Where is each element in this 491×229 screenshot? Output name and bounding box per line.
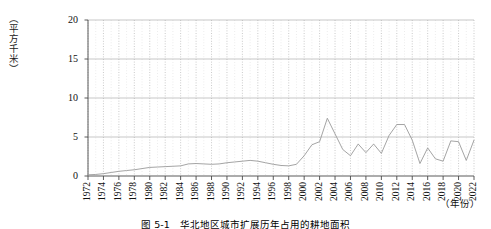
x-axis-unit-label: （年份） <box>440 196 480 210</box>
x-tick-label: 1996 <box>267 182 277 201</box>
x-tick-label: 1984 <box>175 182 185 201</box>
x-tick-label: 2008 <box>360 182 370 201</box>
x-tick-label: 1998 <box>283 182 293 201</box>
x-tick-label: 1982 <box>159 182 169 201</box>
x-tick-label: 1978 <box>128 182 138 201</box>
x-tick-label: 2012 <box>391 182 401 201</box>
x-tick-label: 1994 <box>252 182 262 201</box>
x-tick-label: 1990 <box>221 182 231 201</box>
x-tick-label: 1976 <box>113 182 123 201</box>
x-tick-label: 1974 <box>97 182 107 201</box>
y-tick-label: 0 <box>50 170 78 181</box>
x-axis-ticks <box>88 176 474 180</box>
x-tick-label: 1980 <box>144 182 154 201</box>
x-tick-label: 1992 <box>236 182 246 201</box>
y-tick-label: 10 <box>50 92 78 103</box>
x-tick-label: 1986 <box>190 182 200 201</box>
y-axis-ticks <box>85 20 89 176</box>
x-tick-label: 2014 <box>406 182 416 201</box>
x-tick-label: 2010 <box>375 182 385 201</box>
figure-caption: 图 5-1 华北地区城市扩展历年占用的耕地面积 <box>0 218 491 229</box>
x-tick-label: 2006 <box>344 182 354 201</box>
x-tick-label: 2004 <box>329 182 339 201</box>
y-axis-unit-label: （平方千米） <box>2 14 18 74</box>
x-tick-label: 1972 <box>82 182 92 201</box>
y-tick-label: 5 <box>50 131 78 142</box>
figure-container: （平方千米） 05101520 197219741976197819801982… <box>0 0 491 229</box>
y-tick-label: 15 <box>50 53 78 64</box>
x-tick-label: 2002 <box>314 182 324 201</box>
y-tick-label: 20 <box>50 14 78 25</box>
x-tick-label: 2000 <box>298 182 308 201</box>
x-tick-label: 2016 <box>422 182 432 201</box>
x-tick-label: 1988 <box>206 182 216 201</box>
